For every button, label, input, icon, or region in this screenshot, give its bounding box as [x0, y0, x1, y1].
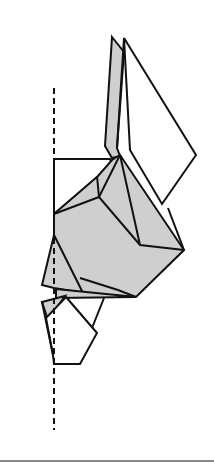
divider-line	[0, 460, 214, 462]
origami-diagram	[0, 0, 214, 469]
